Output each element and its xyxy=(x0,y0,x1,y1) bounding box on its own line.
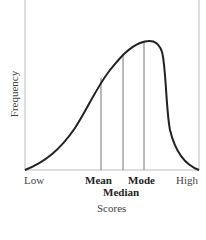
y-axis-label: Frequency xyxy=(8,64,20,124)
distribution-curve xyxy=(25,41,199,170)
x-axis-label: Scores xyxy=(97,202,126,214)
mean-label: Mean xyxy=(85,174,112,186)
mode-label: Mode xyxy=(128,174,155,186)
x-tick-high: High xyxy=(176,174,198,186)
median-label: Median xyxy=(103,186,139,198)
x-tick-low: Low xyxy=(24,174,44,186)
